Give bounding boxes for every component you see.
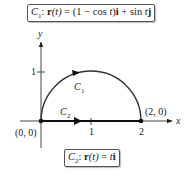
c2-label-subscript: 2 <box>67 112 71 120</box>
y-tick-label-1: 1 <box>31 66 36 77</box>
i-unit-vector: i <box>113 151 116 162</box>
curve-c1-arc <box>41 71 141 121</box>
c2-direction-arrow <box>74 117 82 125</box>
origin-label: (0, 0) <box>15 127 37 139</box>
t-arg: (t) <box>89 151 99 162</box>
rhs-part-1: = <box>99 151 110 162</box>
c2-label: C <box>60 106 67 117</box>
end-point-label: (2, 0) <box>145 106 167 118</box>
x-axis-label: x <box>175 115 181 126</box>
curve2-name: C <box>68 151 75 162</box>
origin-point <box>39 119 44 124</box>
x-tick-label-2: 2 <box>139 126 144 137</box>
c1-direction-arrow <box>72 70 80 76</box>
c1-label-subscript: 1 <box>81 87 85 95</box>
c1-label: C <box>74 81 81 92</box>
curve2-equation-box: C2: r(t) = ti <box>64 149 120 167</box>
y-axis-label: y <box>37 28 43 39</box>
end-point <box>139 119 144 124</box>
x-tick-label-1: 1 <box>89 126 94 137</box>
